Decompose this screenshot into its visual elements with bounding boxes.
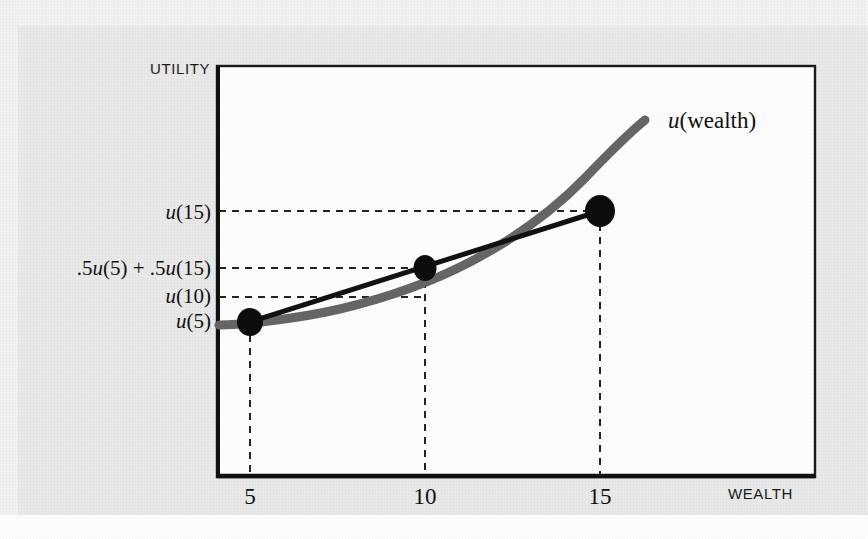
y-axis-title: UTILITY xyxy=(150,60,210,77)
y-tick-u5-var: u xyxy=(176,309,187,333)
y-tick-u15-rest: (15) xyxy=(176,200,211,224)
figure-root: UTILITY WEALTH u(15) .5u(5) + .5u(15) u(… xyxy=(0,0,868,539)
data-point-u5[interactable] xyxy=(237,308,263,336)
y-tick-mix-plus: + xyxy=(127,256,149,280)
data-point-u15[interactable] xyxy=(585,195,615,227)
curve-annotation-rest: (wealth) xyxy=(680,108,757,133)
curve-annotation-var: u xyxy=(668,108,680,133)
caption-strip xyxy=(0,515,868,539)
x-axis-title: WEALTH xyxy=(728,485,793,502)
x-tick-label-5: 5 xyxy=(220,484,280,510)
data-point-mix[interactable] xyxy=(414,255,437,281)
y-tick-mix-coef1: .5 xyxy=(77,256,93,280)
y-tick-label-u5: u(5) xyxy=(176,309,211,334)
x-tick-label-15: 15 xyxy=(570,484,630,510)
y-tick-mix-rest1: (5) xyxy=(103,256,128,280)
y-tick-u10-rest: (10) xyxy=(176,284,211,308)
y-tick-mix-var1: u xyxy=(92,256,103,280)
y-tick-label-mix: .5u(5) + .5u(15) xyxy=(77,256,211,281)
x-tick-label-10: 10 xyxy=(395,484,455,510)
y-tick-label-u10: u(10) xyxy=(166,284,212,309)
curve-annotation-label: u(wealth) xyxy=(668,108,756,134)
y-tick-mix-coef2: .5 xyxy=(150,256,166,280)
y-tick-u15-var: u xyxy=(166,200,177,224)
y-tick-mix-var2: u xyxy=(166,256,177,280)
y-tick-u5-rest: (5) xyxy=(187,309,212,333)
y-tick-mix-rest2: (15) xyxy=(176,256,211,280)
y-tick-u10-var: u xyxy=(166,284,177,308)
y-tick-label-u15: u(15) xyxy=(166,200,212,225)
